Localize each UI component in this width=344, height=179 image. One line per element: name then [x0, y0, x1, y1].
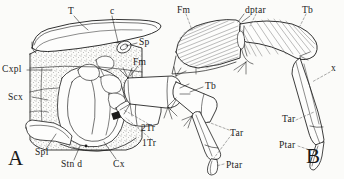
label-x: x — [331, 64, 336, 74]
label-Tb-A: Tb — [205, 82, 216, 92]
label-T: T — [68, 7, 74, 17]
label-1Tr: 1Tr — [142, 139, 156, 149]
label-Sp: Sp — [139, 38, 150, 48]
label-2Tr: 2Tr — [141, 124, 155, 134]
pretarsus-A — [207, 159, 217, 175]
label-Tar-A: Tar — [230, 129, 243, 139]
label-Fm-A: Fm — [133, 58, 146, 68]
figure-container: T c Sp Cxpl Scx Spl Stn d Cx Fm 1Tr 2Tr … — [0, 0, 344, 179]
label-dptar: dptar — [245, 6, 266, 16]
label-Ptar-A: Ptar — [226, 161, 243, 171]
label-Cxpl: Cxpl — [2, 65, 22, 75]
label-Stn-d: Stn d — [61, 160, 82, 170]
label-Spl: Spl — [35, 148, 49, 158]
panel-label-A: A — [8, 148, 23, 169]
label-c: c — [110, 7, 115, 17]
anatomical-illustration — [0, 0, 344, 179]
label-Ptar-B: Ptar — [279, 141, 296, 151]
panel-label-B: B — [306, 146, 320, 167]
tarsus-B — [292, 58, 324, 145]
label-Tb-B: Tb — [302, 6, 313, 16]
label-Tar-B: Tar — [282, 115, 295, 125]
label-Scx: Scx — [8, 93, 23, 103]
label-Fm-B: Fm — [177, 6, 190, 16]
label-Cx: Cx — [113, 160, 125, 170]
